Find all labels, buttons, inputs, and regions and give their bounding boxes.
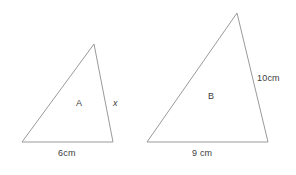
triangle-a-interior-label: A bbox=[76, 98, 82, 108]
triangle-a-outline bbox=[22, 44, 113, 142]
triangle-a-base-length-label: 6cm bbox=[58, 148, 76, 158]
triangle-b-base-length-label: 9 cm bbox=[192, 148, 212, 158]
triangle-b-right-side-length-label: 10cm bbox=[257, 73, 280, 83]
geometry-figure: A 6cm x B 9 cm 10cm bbox=[0, 0, 296, 175]
figure-canvas bbox=[0, 0, 296, 175]
triangle-b-interior-label: B bbox=[208, 91, 214, 101]
triangle-a-unknown-side-label: x bbox=[113, 98, 118, 108]
triangle-b-outline bbox=[147, 13, 268, 142]
